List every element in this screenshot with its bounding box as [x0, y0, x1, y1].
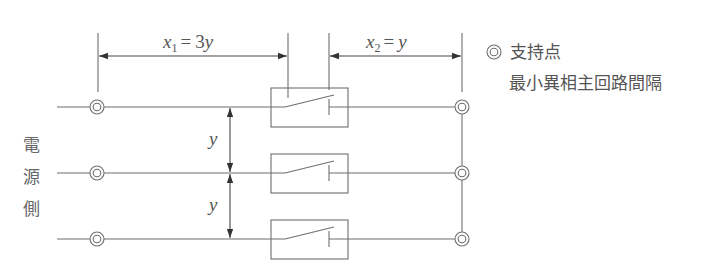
support-points	[90, 45, 501, 246]
x2-label: x2=y	[365, 31, 407, 55]
y-label-lower: y	[207, 194, 218, 215]
source-side-char-2: 源	[23, 163, 40, 188]
clearance-diagram: x1=3y x2=y	[0, 0, 711, 275]
support-point-left-1	[90, 100, 104, 114]
x1-label: x1=3y	[162, 31, 214, 55]
legend-min-phase-spacing-label: 最小異相主回路間隔	[509, 73, 662, 93]
support-point-left-3	[90, 232, 104, 246]
conductors	[57, 107, 462, 239]
support-point-left-2	[90, 166, 104, 180]
support-point-right-2	[455, 166, 469, 180]
y-label-upper: y	[207, 128, 218, 149]
support-point-right-3	[455, 232, 469, 246]
source-side-char-1: 電	[23, 131, 40, 156]
legend-support-point-label: 支持点	[510, 42, 561, 62]
support-point-right-1	[455, 100, 469, 114]
source-side-char-3: 側	[23, 195, 40, 220]
legend-support-point-icon	[487, 45, 501, 59]
